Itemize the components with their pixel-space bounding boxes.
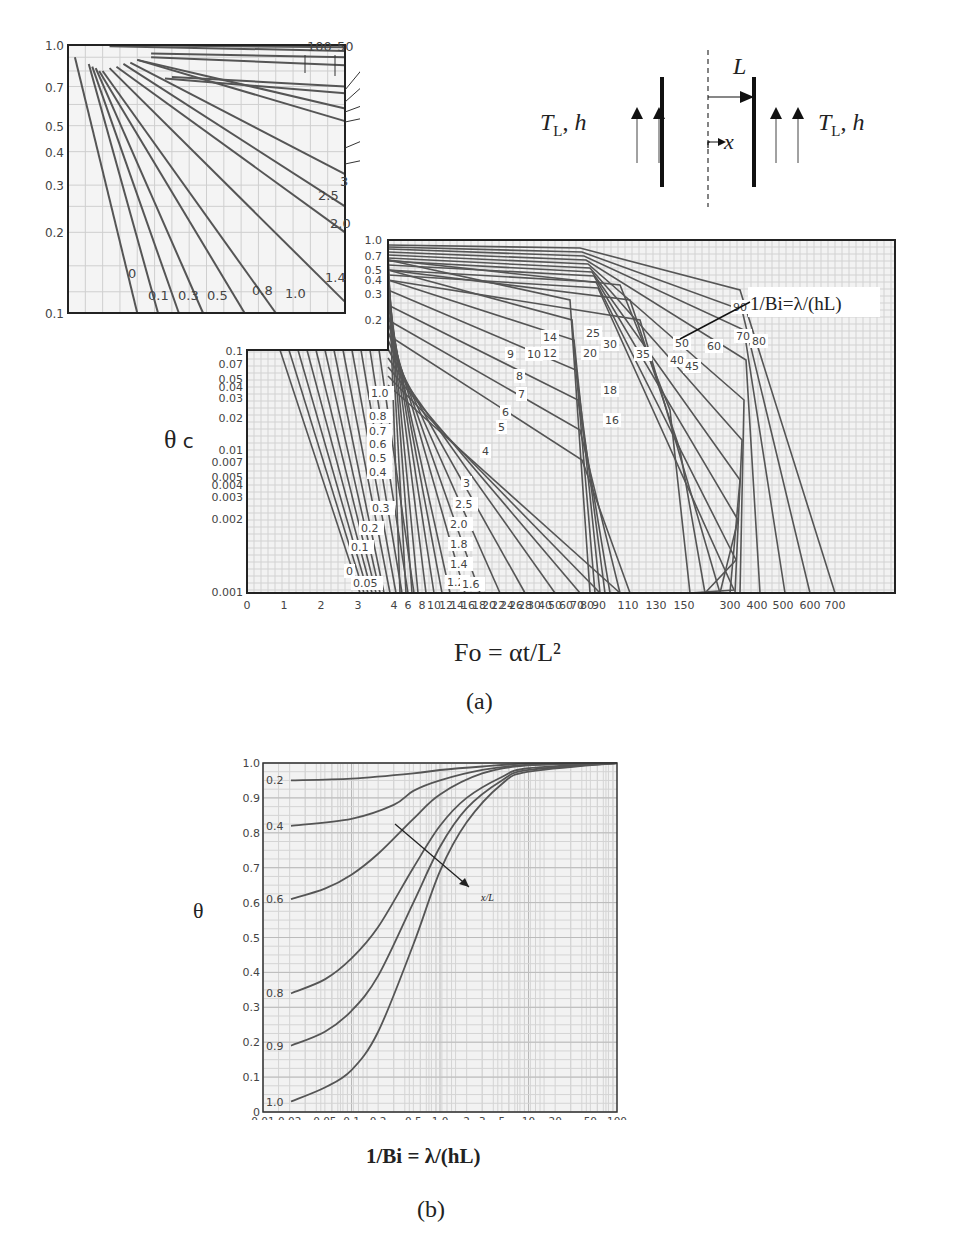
svg-text:0.02: 0.02: [278, 1115, 301, 1120]
svg-text:10: 10: [522, 1115, 535, 1120]
curve-label: 0.4: [369, 466, 387, 479]
curve-label: 10: [527, 348, 541, 361]
caption-b: (b): [417, 1196, 445, 1223]
curve-label: 9: [507, 348, 514, 361]
svg-text:0.7: 0.7: [45, 81, 64, 95]
svg-text:1.0: 1.0: [243, 757, 261, 770]
svg-text:0.05: 0.05: [313, 1115, 336, 1120]
svg-text:0: 0: [244, 599, 251, 612]
curve-label: 45: [685, 360, 699, 373]
right-boundary-label: TL, h: [818, 109, 865, 140]
svg-text:0.5: 0.5: [45, 120, 64, 134]
svg-text:0.3: 0.3: [243, 1001, 261, 1014]
svg-text:2: 2: [463, 1115, 470, 1120]
svg-text:0.003: 0.003: [212, 491, 244, 504]
svg-text:0.4: 0.4: [243, 966, 261, 979]
svg-text:4: 4: [391, 599, 398, 612]
svg-text:90: 90: [592, 599, 606, 612]
svg-text:130: 130: [646, 599, 667, 612]
caption-a: (a): [466, 688, 493, 715]
svg-text:0.1: 0.1: [243, 1071, 261, 1084]
svg-text:600: 600: [800, 599, 821, 612]
svg-text:0.5: 0.5: [405, 1115, 422, 1120]
svg-text:0.1: 0.1: [226, 345, 244, 358]
svg-text:0.2: 0.2: [45, 226, 64, 240]
svg-text:50: 50: [584, 1115, 597, 1120]
curve-label: 50: [675, 337, 689, 350]
svg-text:400: 400: [747, 599, 768, 612]
svg-text:0.6: 0.6: [243, 897, 261, 910]
svg-text:0.2: 0.2: [365, 314, 383, 327]
svg-text:0: 0: [64, 317, 72, 320]
svg-text:0.7: 0.7: [365, 250, 383, 263]
svg-text:1.0: 1.0: [45, 39, 64, 53]
slab-schematic: TL, h L x TL, h: [600, 45, 930, 215]
arrow-head-icon: [740, 91, 754, 103]
curve-label: 0.2: [266, 774, 284, 787]
curve-label: 60: [707, 340, 721, 353]
svg-text:1.0: 1.0: [365, 234, 383, 247]
curve-label: 25: [586, 327, 600, 340]
curve-label: 50: [337, 39, 354, 54]
chart-a-main: 1.00.70.50.40.30.20.10.070.050.040.030.0…: [150, 230, 920, 630]
svg-text:0.4: 0.4: [45, 146, 64, 160]
curve-label: 14: [543, 331, 557, 344]
curve-label: 0: [128, 266, 136, 281]
svg-text:0.8: 0.8: [243, 827, 261, 840]
svg-text:0.002: 0.002: [212, 513, 244, 526]
curve-label: 12: [543, 347, 557, 360]
curve-label: 18: [603, 384, 617, 397]
svg-text:100: 100: [607, 1115, 627, 1120]
legend-annotation: 1/Bi=λ/(hL): [750, 293, 842, 315]
left-boundary-label: TL, h: [540, 109, 587, 140]
arrow-head-icon: [792, 107, 804, 119]
svg-text:0.7: 0.7: [243, 862, 261, 875]
curve-label: 0.6: [266, 893, 284, 906]
svg-text:2: 2: [318, 599, 325, 612]
curve-label: 1.6: [462, 578, 480, 591]
curve-label: 2.0: [450, 518, 468, 531]
curve-label: 0.8: [266, 987, 284, 1000]
svg-text:0.4: 0.4: [365, 274, 383, 287]
svg-text:0.03: 0.03: [219, 392, 244, 405]
curve-label: 1.4: [450, 558, 468, 571]
curve-label: 1.0: [266, 1096, 284, 1109]
curve-label: 0.3: [372, 502, 390, 515]
svg-text:1: 1: [133, 317, 141, 320]
curve-label: 4: [482, 445, 489, 458]
chart-b-ylabel: θ: [193, 898, 204, 924]
svg-text:6: 6: [405, 599, 412, 612]
coordinate-label: x: [724, 129, 734, 155]
curve-label: 40: [670, 354, 684, 367]
curve-label: 0.5: [369, 452, 387, 465]
curve-label: 0.7: [369, 425, 387, 438]
curve-label: 5: [498, 421, 505, 434]
svg-text:0.007: 0.007: [212, 456, 244, 469]
curve-label: 0.1: [351, 541, 369, 554]
curve-label: 80: [752, 335, 766, 348]
svg-text:700: 700: [825, 599, 846, 612]
svg-text:1: 1: [281, 599, 288, 612]
curve-label: 35: [636, 348, 650, 361]
svg-text:0.1: 0.1: [343, 1115, 360, 1120]
curve-label: 2.5: [318, 188, 339, 203]
svg-text:1.0: 1.0: [432, 1115, 449, 1120]
svg-text:0.5: 0.5: [243, 932, 261, 945]
curve-label: 16: [605, 414, 619, 427]
arrow-head-icon: [631, 107, 643, 119]
svg-text:0.2: 0.2: [243, 1036, 261, 1049]
svg-text:0.01: 0.01: [251, 1115, 274, 1120]
chart-a-ylabel: θ c: [164, 425, 194, 455]
svg-text:500: 500: [773, 599, 794, 612]
svg-text:0.07: 0.07: [219, 358, 244, 371]
svg-text:0.3: 0.3: [365, 288, 383, 301]
chart-b-xlabel: 1/Bi = λ/(hL): [366, 1144, 480, 1169]
curve-label: 3: [340, 174, 348, 189]
svg-text:3: 3: [355, 599, 362, 612]
curve-label: 1.0: [371, 387, 389, 400]
svg-text:8: 8: [419, 599, 426, 612]
curve-label: 2.0: [330, 216, 351, 231]
x-over-L-annotation: x/L: [480, 892, 494, 903]
svg-text:150: 150: [674, 599, 695, 612]
chart-b: 0.20.40.60.80.91.0x/L00.10.20.30.40.50.6…: [180, 745, 630, 1120]
